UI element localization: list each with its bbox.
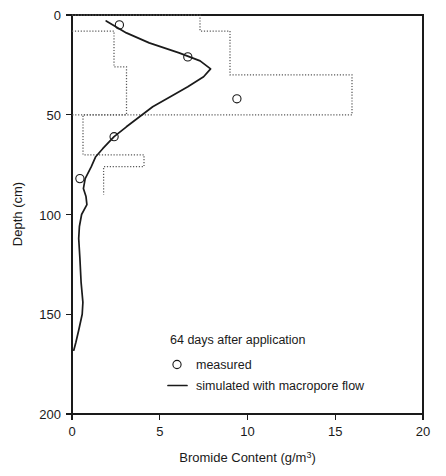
x-tick-label-10: 10 <box>240 424 254 439</box>
x-axis-tick-labels: 0 5 10 15 20 <box>68 424 430 439</box>
x-tick-label-0: 0 <box>68 424 75 439</box>
chart-legend: 64 days after application measured simul… <box>168 333 365 393</box>
legend-entry-label-measured: measured <box>196 358 252 372</box>
y-tick-label-200: 200 <box>39 407 61 422</box>
x-axis-title-tail: ) <box>311 450 315 465</box>
x-tick-label-20: 20 <box>416 424 430 439</box>
legend-measured-marker-icon <box>173 360 181 368</box>
y-axis-ticks <box>66 15 72 414</box>
simulated-series <box>74 21 211 350</box>
x-tick-label-5: 5 <box>156 424 163 439</box>
x-axis-title-base: Bromide Content (g/m <box>179 450 306 465</box>
bromide-depth-profile-figure: 0 50 100 150 200 0 5 10 15 20 Bromide Co… <box>0 0 446 476</box>
simulated-curve-path <box>74 21 211 350</box>
legend-entry-label-simulated: simulated with macropore flow <box>196 379 365 393</box>
y-axis-title: Depth (cm) <box>10 182 25 246</box>
measured-profile-step-path-lower <box>72 31 144 195</box>
x-axis-title: Bromide Content (g/m3) <box>179 450 316 465</box>
measured-profile-step-series <box>72 15 352 195</box>
y-tick-label-100: 100 <box>39 208 61 223</box>
measured-point-marker <box>76 175 84 183</box>
y-axis-tick-labels: 0 50 100 150 200 <box>39 8 61 422</box>
y-tick-label-50: 50 <box>47 108 61 123</box>
legend-annotation-text: 64 days after application <box>170 333 306 347</box>
measured-point-marker <box>115 21 123 29</box>
x-tick-label-15: 15 <box>328 424 342 439</box>
y-tick-label-0: 0 <box>54 8 61 23</box>
chart-canvas: 0 50 100 150 200 0 5 10 15 20 Bromide Co… <box>0 0 446 476</box>
y-tick-label-150: 150 <box>39 307 61 322</box>
x-axis-ticks <box>72 414 423 420</box>
measured-point-marker <box>233 95 241 103</box>
